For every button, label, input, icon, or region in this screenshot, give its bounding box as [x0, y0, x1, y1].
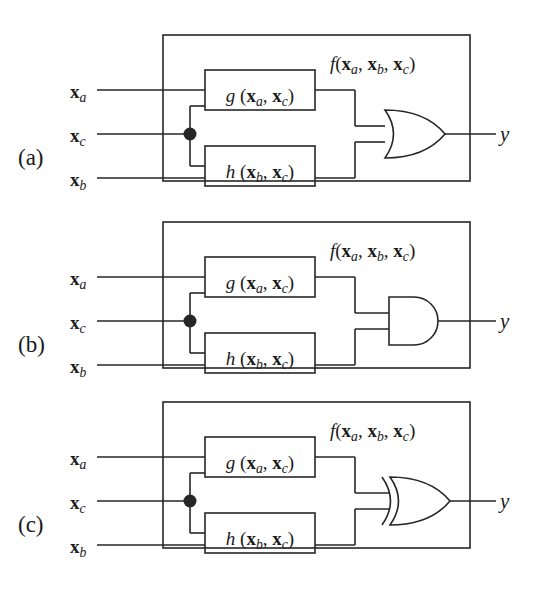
output-label-y: y	[500, 311, 509, 332]
h-block-label: h (xb, xc)	[210, 349, 310, 372]
h-block-label: h (xb, xc)	[210, 529, 310, 552]
output-label-y: y	[500, 491, 509, 512]
panel-tag-b: (b)	[18, 333, 45, 356]
input-label-xb: xb	[70, 357, 86, 380]
wire-junction-dot	[184, 495, 197, 508]
g-block-label: g (xa, xc)	[210, 273, 310, 296]
panel-b: (b) xa xc xb f(xa, xb, xc) g (xa, xc) h …	[0, 205, 549, 385]
input-label-xc: xc	[70, 313, 86, 336]
wire-junction-dot	[184, 128, 197, 141]
panel-a: (a) xa xc xb f(xa, xb, xc) g (xa, xc) h …	[0, 18, 549, 198]
function-label-f: f(xa, xb, xc)	[330, 54, 415, 77]
input-label-xc: xc	[70, 493, 86, 516]
function-label-f: f(xa, xb, xc)	[330, 241, 415, 264]
g-block-label: g (xa, xc)	[210, 453, 310, 476]
input-label-xc: xc	[70, 126, 86, 149]
output-label-y: y	[500, 124, 509, 145]
or-gate-icon	[385, 110, 445, 158]
input-label-xa: xa	[70, 82, 86, 105]
panel-tag-c: (c)	[18, 513, 44, 536]
g-block-label: g (xa, xc)	[210, 86, 310, 109]
and-gate-icon	[389, 297, 438, 345]
input-label-xa: xa	[70, 449, 86, 472]
xor-gate-icon	[382, 477, 450, 525]
panel-c: (c) xa xc xb f(xa, xb, xc) g (xa, xc) h …	[0, 385, 549, 565]
input-label-xa: xa	[70, 269, 86, 292]
input-label-xb: xb	[70, 170, 86, 193]
panel-tag-a: (a)	[18, 146, 44, 169]
h-block-label: h (xb, xc)	[210, 162, 310, 185]
input-label-xb: xb	[70, 537, 86, 560]
wire-junction-dot	[184, 315, 197, 328]
figure-root: (a) xa xc xb f(xa, xb, xc) g (xa, xc) h …	[0, 0, 549, 590]
function-label-f: f(xa, xb, xc)	[330, 421, 415, 444]
